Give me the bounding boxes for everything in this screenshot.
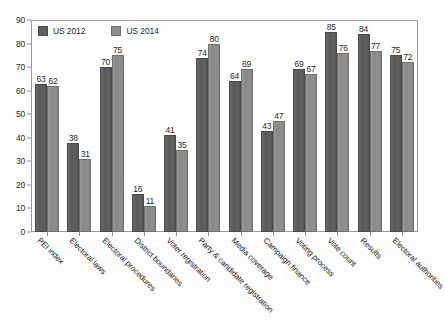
legend-label: US 2012 (53, 26, 85, 36)
bar-value-label: 16 (133, 184, 142, 194)
bar-value-label: 84 (359, 24, 368, 34)
bar: 77 (370, 51, 382, 232)
bar-value-label: 63 (37, 74, 46, 84)
bar-value-label: 69 (295, 59, 304, 69)
legend-swatch-light (111, 26, 121, 36)
bar-group: 1611 (130, 20, 158, 232)
y-axis-tick-label: 10 (16, 203, 25, 213)
y-axis-tick-label: 0 (20, 227, 25, 237)
bar: 80 (208, 44, 220, 232)
bar-group: 6362 (33, 20, 61, 232)
legend-label: US 2014 (126, 26, 158, 36)
legend-swatch-dark (38, 26, 48, 36)
chart-legend: US 2012US 2014 (34, 24, 163, 38)
y-axis-tick-label: 80 (16, 39, 25, 49)
x-axis-category-label: Vote count (326, 236, 358, 268)
bar-group: 8477 (356, 20, 384, 232)
bar-value-label: 85 (327, 22, 336, 32)
bar-value-label: 75 (391, 45, 400, 55)
bar: 63 (35, 84, 47, 232)
bar-value-label: 77 (371, 41, 380, 51)
bar: 69 (293, 69, 305, 232)
bar: 41 (164, 135, 176, 232)
y-axis: 0102030405060708090 (0, 0, 31, 232)
bar: 75 (112, 55, 124, 232)
y-axis-tick-label: 90 (16, 15, 25, 25)
bar-group: 3831 (65, 20, 93, 232)
bar: 76 (337, 53, 349, 232)
bar: 38 (67, 143, 79, 233)
x-axis-category-label: Results (358, 236, 383, 261)
bar-group: 6469 (227, 20, 255, 232)
bar-value-label: 43 (262, 121, 271, 131)
bar: 67 (305, 74, 317, 232)
bar-value-label: 74 (198, 48, 207, 58)
bar: 84 (358, 34, 370, 232)
bar: 85 (325, 32, 337, 232)
bar: 43 (261, 131, 273, 232)
bar: 31 (79, 159, 91, 232)
bar: 11 (144, 206, 156, 232)
bar-group: 7480 (194, 20, 222, 232)
bar-value-label: 47 (274, 111, 283, 121)
bar: 62 (47, 86, 59, 232)
bar: 35 (176, 150, 188, 232)
bar-value-label: 35 (178, 140, 187, 150)
bar: 74 (196, 58, 208, 232)
bar: 69 (241, 69, 253, 232)
bar-value-label: 75 (113, 45, 122, 55)
bar-value-label: 67 (307, 64, 316, 74)
bar-value-label: 41 (166, 125, 175, 135)
y-axis-tick-label: 70 (16, 62, 25, 72)
bar-group: 6967 (291, 20, 319, 232)
bar-group: 8576 (323, 20, 351, 232)
bar-group: 4347 (259, 20, 287, 232)
legend-item: US 2014 (111, 26, 158, 36)
x-axis-labels: PEI indexElectoral lawsElectoral procedu… (31, 236, 431, 335)
bar-value-label: 31 (81, 149, 90, 159)
bar: 72 (402, 62, 414, 232)
y-axis-tick-label: 60 (16, 86, 25, 96)
y-axis-tick-label: 30 (16, 156, 25, 166)
bar-value-label: 69 (242, 59, 251, 69)
bar-value-label: 70 (101, 57, 110, 67)
bar: 16 (132, 194, 144, 232)
bar-group: 7572 (388, 20, 416, 232)
bar-value-label: 11 (146, 196, 154, 206)
x-axis-category-label: Electoral procedures (100, 236, 157, 293)
y-axis-tick-label: 20 (16, 180, 25, 190)
y-axis-tick-label: 50 (16, 109, 25, 119)
legend-item: US 2012 (38, 26, 85, 36)
bar-value-label: 76 (339, 43, 348, 53)
bar: 47 (273, 121, 285, 232)
bar-value-label: 72 (403, 52, 412, 62)
bar-group: 4135 (162, 20, 190, 232)
bar-value-label: 38 (69, 133, 78, 143)
bar-value-label: 80 (210, 34, 219, 44)
bars-container: 6362383170751611413574806469434769678576… (31, 20, 418, 232)
bar-value-label: 64 (230, 71, 239, 81)
bar: 70 (100, 67, 112, 232)
bar: 75 (390, 55, 402, 232)
x-axis-category-label: PEI index (36, 236, 66, 266)
bar: 64 (229, 81, 241, 232)
bar-group: 7075 (98, 20, 126, 232)
bar-value-label: 62 (49, 76, 58, 86)
x-axis-category-label: Electoral authorities (391, 236, 445, 291)
y-axis-tick-label: 40 (16, 133, 25, 143)
